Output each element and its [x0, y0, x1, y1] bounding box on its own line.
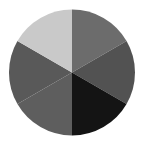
pie-chart: [0, 0, 145, 147]
